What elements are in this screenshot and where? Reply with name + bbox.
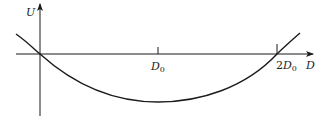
y-axis-label: U — [26, 6, 36, 19]
tick-label-d0: D0 — [150, 60, 165, 74]
potential-diagram: U D D0 2D0 — [0, 0, 329, 121]
x-axis-label: D — [305, 59, 315, 72]
tick-label-2d0: 2D0 — [276, 59, 297, 73]
